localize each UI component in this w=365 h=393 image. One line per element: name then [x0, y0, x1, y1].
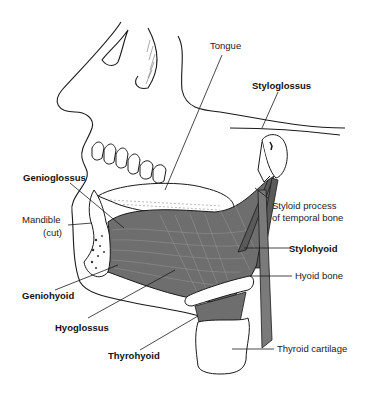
label-stylohyoid: Stylohyoid	[289, 243, 338, 254]
thyroid-cartilage	[196, 318, 250, 374]
label-styloid-process-line2: of temporal bone	[272, 212, 343, 223]
tongue-muscles-illustration	[0, 0, 365, 393]
label-thyrohyoid: Thyrohyoid	[108, 350, 160, 361]
label-thyroid-cartilage: Thyroid cartilage	[277, 343, 347, 354]
anatomy-figure: Tongue Styloglossus Genioglossus Mandibl…	[0, 0, 365, 393]
label-mandible-cut: (cut)	[43, 227, 62, 238]
label-hyoglossus: Hyoglossus	[55, 322, 109, 333]
label-tongue: Tongue	[210, 40, 241, 51]
label-styloglossus: Styloglossus	[252, 80, 311, 91]
styloid-region	[258, 135, 287, 182]
label-geniohyoid: Geniohyoid	[22, 290, 74, 301]
mandible	[84, 190, 112, 277]
label-styloid-process-line1: Styloid process	[272, 200, 336, 211]
label-hyoid-bone: Hyoid bone	[295, 270, 343, 281]
upper-teeth	[92, 142, 166, 183]
label-mandible: Mandible	[22, 214, 61, 225]
label-genioglossus: Genioglossus	[23, 172, 86, 183]
